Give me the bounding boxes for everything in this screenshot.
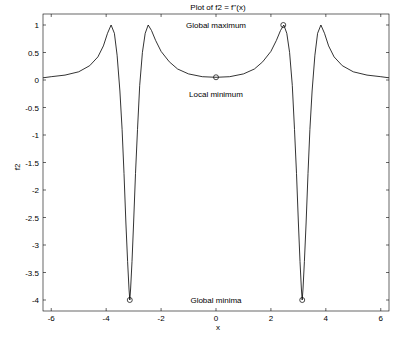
y-tick-label: -0.5 [25, 104, 39, 113]
y-tick-label: 0 [35, 76, 40, 85]
x-tick-label: -6 [48, 314, 56, 323]
global-maximum-marker [281, 23, 286, 28]
y-axis-ticks: 10.50-0.5-1-1.5-2-2.5-3-3.5-4 [25, 21, 389, 305]
y-tick-label: 0.5 [28, 49, 40, 58]
x-tick-label: 2 [269, 314, 274, 323]
y-tick-label: -1.5 [25, 159, 39, 168]
y-tick-label: -2.5 [25, 214, 39, 223]
f2-curve [43, 25, 389, 300]
local-minimum-label: Local minimum [189, 90, 243, 99]
extrema-markers [127, 23, 304, 303]
y-tick-label: -3.5 [25, 269, 39, 278]
x-tick-label: -2 [158, 314, 166, 323]
x-axis-label: x [216, 323, 220, 332]
annotations: Global maximumLocal minimumGlobal minima [186, 21, 246, 305]
y-tick-label: -3 [32, 241, 40, 250]
x-axis-ticks: -6-4-20246 [48, 14, 384, 323]
y-tick-label: 1 [35, 21, 40, 30]
x-tick-label: -4 [103, 314, 111, 323]
y-axis-label: f2 [13, 163, 22, 170]
series-line [43, 25, 389, 300]
chart-title: Plot of f2 = f''(x) [190, 3, 246, 12]
y-tick-label: -2 [32, 186, 40, 195]
global-maximum-label: Global maximum [186, 21, 246, 30]
x-tick-label: 0 [214, 314, 219, 323]
y-tick-label: -1 [32, 131, 40, 140]
figure: -6-4-20246 10.50-0.5-1-1.5-2-2.5-3-3.5-4… [0, 0, 409, 345]
axes-box [43, 14, 389, 311]
axes-frame [43, 14, 389, 311]
x-tick-label: 6 [379, 314, 384, 323]
x-tick-label: 4 [324, 314, 329, 323]
y-tick-label: -4 [32, 296, 40, 305]
global-minima-label: Global minima [190, 296, 242, 305]
